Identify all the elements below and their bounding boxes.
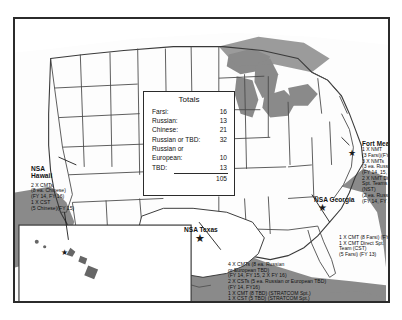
place-label-nsa-texas: NSA Texas — [184, 226, 218, 233]
leader-lines — [15, 19, 388, 301]
callout-line: (FY 14, FY 15) — [362, 199, 390, 205]
callout-nsa-texas: 4 X CMTs (8 ea. Russian or European TBD)… — [228, 262, 326, 302]
callout-fort-meade: Fort Meade 1 X NMT (3 Farsi)(FY 13) 3 X … — [362, 140, 390, 204]
callout-line: (5 Farsi) (FY 13) — [339, 252, 390, 258]
callout-line: (5 Chinese)(FY 15) — [31, 206, 74, 212]
place-label-nsa-georgia: NSA Georgia — [314, 196, 354, 203]
callout-line: 1 X CST (5 TBD) (STRATCOM Spt.) — [228, 296, 326, 302]
callout-nsa-georgia: 1 X CMT (8 Farsi) (FY 13) 1 X CMT Direct… — [339, 235, 390, 258]
callout-header-line1: NSA — [31, 165, 74, 172]
callout-header-line2: Hawaii — [31, 172, 74, 179]
callout-nsa-hawaii: NSA Hawaii 2 X CMTs (8 ea. Chinese) (FY … — [31, 165, 74, 211]
map-figure: Totals Farsi: 16 Russian: 13 Chinese: 21… — [13, 17, 390, 303]
